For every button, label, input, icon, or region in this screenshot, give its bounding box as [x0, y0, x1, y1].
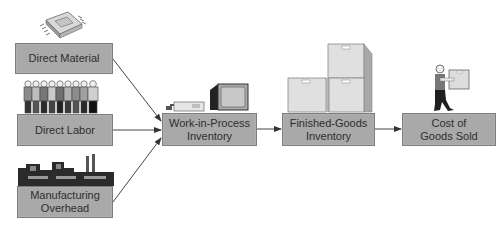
node-label-line1: Cost of	[432, 117, 467, 130]
node-label: Direct Material	[29, 52, 100, 65]
node-label-line2: Inventory	[306, 130, 351, 143]
workers-group-icon	[22, 80, 104, 114]
node-label-line1: Work-in-Process	[169, 117, 250, 130]
node-manufacturing-overhead: Manufacturing Overhead	[17, 186, 113, 218]
factory-icon	[18, 154, 114, 186]
node-direct-labor: Direct Labor	[17, 114, 113, 146]
node-work-in-process: Work-in-Process Inventory	[162, 113, 257, 146]
node-cost-of-goods-sold: Cost of Goods Sold	[402, 113, 496, 146]
arrow-overhead-to-wip	[113, 138, 161, 202]
arrow-material-to-wip	[113, 59, 161, 121]
cost-flow-diagram: Direct Material Direct Labor Manufacturi…	[0, 0, 502, 228]
node-label-line1: Finished-Goods	[290, 117, 368, 130]
node-label-line2: Overhead	[41, 202, 89, 215]
node-label-line2: Goods Sold	[420, 130, 477, 143]
microchip-icon	[40, 10, 86, 42]
person-carrying-box-icon	[432, 64, 472, 112]
node-label-line1: Manufacturing	[30, 189, 100, 202]
node-label: Direct Labor	[35, 124, 95, 137]
node-label-line2: Inventory	[187, 130, 232, 143]
computer-equipment-icon	[166, 82, 250, 114]
node-finished-goods: Finished-Goods Inventory	[282, 113, 375, 146]
stacked-boxes-icon	[286, 42, 376, 114]
node-direct-material: Direct Material	[15, 43, 113, 74]
